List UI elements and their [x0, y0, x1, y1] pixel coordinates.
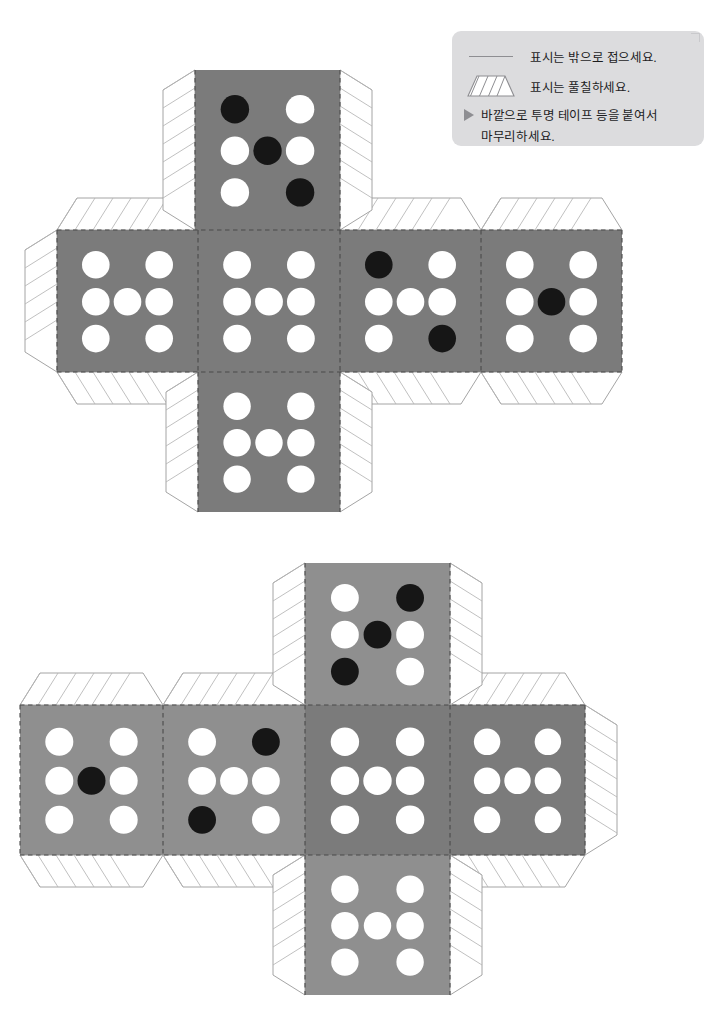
glue-tab-hatch-line — [20, 855, 40, 887]
glue-tab-hatch-line — [273, 653, 305, 673]
glue-tab-hatch-line — [450, 855, 482, 875]
glue-tab-hatch-line — [553, 198, 573, 230]
dice-pip-white-top-right — [286, 95, 314, 123]
dice-pip-black-top-right — [252, 728, 280, 756]
dice-face[interactable] — [20, 705, 163, 855]
dice-face[interactable] — [57, 230, 198, 372]
glue-tab-hatch-line — [585, 723, 617, 743]
legend-box: 표시는 밖으로 접으세요. 표시는 풀칠하세요. 바깥으로 투명 테이프 등을 … — [452, 31, 704, 146]
glue-tab-hatch-line — [585, 813, 617, 833]
dice-face[interactable] — [305, 705, 450, 855]
glue-tab-hatch-line — [412, 372, 432, 404]
dice-pip-white-bottom-right — [396, 806, 424, 834]
dice-pip-white-bottom-right — [110, 806, 138, 834]
glue-tab-hatch-line — [358, 372, 378, 404]
dice-face[interactable] — [305, 855, 450, 995]
glue-tab-hatch-line — [340, 88, 372, 108]
dice-face[interactable] — [163, 705, 305, 855]
dice-pip-white-center — [397, 288, 425, 316]
glue-tab-hatch-line — [25, 284, 57, 304]
glue-tab-hatch-line — [450, 563, 482, 583]
glue-tab-hatch-line — [75, 198, 95, 230]
glue-tab — [340, 372, 372, 512]
dice-pip-white-bottom-left — [331, 948, 358, 975]
glue-tab-hatch-line — [450, 945, 482, 965]
face-row-4 — [450, 705, 585, 855]
dice-pip-white-top-left — [474, 729, 500, 755]
glue-tab-hatch-line — [585, 705, 617, 725]
glue-tab-hatch-line — [111, 372, 131, 404]
dice-face[interactable] — [305, 563, 450, 705]
legend-glue-text: 표시는 풀칠하세요. — [530, 77, 630, 96]
dice-pip-white-bottom-right — [287, 325, 315, 353]
dice-pip-white-mid-right — [145, 288, 173, 316]
glue-tab-hatch-line — [57, 198, 77, 230]
glue-tab-hatch-line — [585, 759, 617, 779]
glue-tab-hatch-line — [522, 855, 542, 887]
glue-tab-hatch-line — [450, 635, 482, 655]
glue-tab-hatch-line — [553, 372, 573, 404]
dice-face[interactable] — [340, 230, 481, 372]
glue-tab-hatch-line — [38, 673, 58, 705]
dice-pip-white-bottom-left — [82, 325, 110, 353]
dice-pip-white-bottom-left — [223, 465, 250, 492]
dice-pip-white-center — [255, 288, 283, 316]
glue-tab-hatched-icon — [452, 74, 530, 98]
glue-tab-hatch-line — [92, 855, 112, 887]
glue-tab — [450, 673, 585, 705]
dice-pip-white-top-left — [223, 251, 251, 279]
glue-tab-hatch-line — [111, 198, 131, 230]
legend-row-fold: 표시는 밖으로 접으세요. — [452, 41, 704, 71]
glue-tab-hatch-line — [25, 302, 57, 322]
glue-tab-hatch-line — [74, 855, 94, 887]
dice-pip-black-center — [77, 767, 105, 795]
dice-pip-black-center — [364, 621, 392, 649]
dice-pip-white-bottom-left — [474, 807, 500, 833]
glue-tab — [450, 855, 585, 887]
legend-note-line-1: 바깥으로 투명 테이프 등을 붙여서 — [481, 106, 658, 127]
dice-pip-white-top-left — [82, 251, 110, 279]
glue-tab-hatch-line — [585, 777, 617, 797]
glue-tab-hatch-line — [163, 142, 195, 162]
dice-face[interactable] — [198, 230, 340, 372]
glue-tab-hatch-line — [217, 673, 237, 705]
dice-face[interactable] — [481, 230, 622, 372]
glue-tab-hatch-line — [450, 653, 482, 673]
dice-pip-white-mid-right — [396, 912, 423, 939]
glue-tab-hatch-line — [181, 855, 201, 887]
glue-tab-hatch-line — [571, 198, 591, 230]
dice-pip-white-center — [255, 429, 282, 456]
glue-tab-hatch-line — [504, 855, 524, 887]
glue-tab-hatch-line — [253, 855, 273, 887]
dice-pip-white-mid-left — [45, 767, 73, 795]
dice-pip-white-bottom-right — [535, 807, 561, 833]
glue-tab — [166, 372, 198, 512]
dice-pip-white-bottom-left — [365, 325, 393, 353]
glue-tab-hatch-line — [273, 855, 305, 875]
glue-tab-hatch-line — [273, 909, 305, 929]
glue-tab-hatch-line — [499, 198, 519, 230]
dice-pip-white-top-right — [396, 728, 424, 756]
glue-tab-hatch-line — [517, 198, 537, 230]
face-row-1 — [20, 705, 163, 855]
glue-tab-hatch-line — [340, 142, 372, 162]
glue-tab-hatch-line — [273, 891, 305, 911]
face-top — [305, 563, 450, 705]
glue-tab — [57, 372, 198, 404]
glue-tab-hatch-line — [412, 198, 432, 230]
glue-tab-hatch-line — [147, 198, 167, 230]
glue-tab-hatch-line — [163, 673, 183, 705]
dice-pip-white-top-left — [506, 251, 534, 279]
glue-tab-hatch-line — [450, 673, 470, 705]
dice-face[interactable] — [195, 70, 340, 230]
dice-pip-black-center — [538, 288, 566, 316]
glue-tab-hatch-line — [340, 70, 372, 90]
corner-crop-mark — [691, 33, 700, 42]
glue-tab-hatch-line — [340, 124, 372, 144]
dice-pip-white-mid-right — [396, 621, 424, 649]
glue-tab-hatch-line — [75, 372, 95, 404]
glue-tab-hatch-line — [235, 855, 255, 887]
glue-tab-hatch-line — [273, 945, 305, 965]
dice-face[interactable] — [198, 372, 340, 512]
dice-face[interactable] — [450, 705, 585, 855]
